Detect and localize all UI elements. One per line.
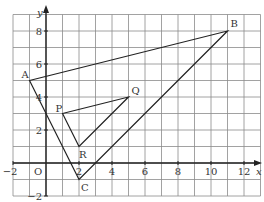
y-axis-label: y [36,7,43,18]
y-tick-label: 8 [36,26,42,37]
grid-lines [13,15,261,197]
coordinate-grid-diagram: −224681012−22468xyOABCPQR [0,0,264,201]
x-axis-label: x [256,166,262,177]
x-tick-label: 10 [205,166,218,177]
x-tick-label: 4 [109,166,115,177]
point-label-r: R [79,149,87,160]
point-label-a: A [21,69,30,80]
point-label-c: C [81,182,89,193]
point-label-q: Q [132,85,140,96]
y-axis-arrow-icon [43,5,49,13]
y-tick-label: 6 [36,59,42,70]
origin-label: O [34,166,42,177]
plot-svg: −224681012−22468xyOABCPQR [0,0,264,201]
x-tick-label: 6 [142,166,148,177]
y-tick-label: −2 [27,191,42,202]
x-tick-label: 2 [76,166,82,177]
x-tick-label: 12 [238,166,251,177]
point-label-b: B [231,18,238,29]
point-label-p: P [56,103,63,114]
x-tick-label: −2 [3,166,18,177]
x-tick-label: 8 [175,166,181,177]
y-tick-label: 4 [36,92,42,103]
y-tick-label: 2 [36,125,42,136]
